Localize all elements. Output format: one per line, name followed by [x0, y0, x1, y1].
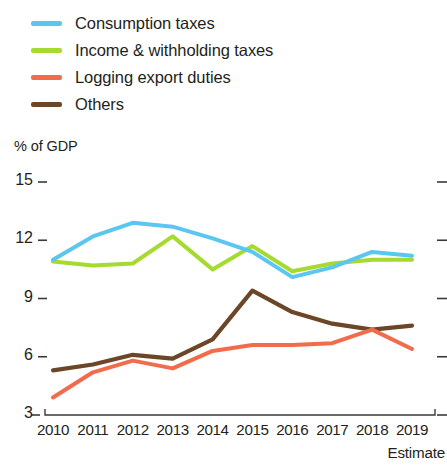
x-axis-tick-label: 2015 [236, 421, 268, 438]
x-axis-line [45, 409, 435, 415]
series-line-others [53, 291, 412, 371]
x-axis-tick-label: 2018 [356, 421, 388, 438]
x-axis-tick-label: 2012 [117, 421, 149, 438]
x-axis-tick-label: 2013 [157, 421, 189, 438]
y-axis-tick-label: 3 [0, 404, 33, 422]
line-chart: 1512963 [0, 0, 447, 468]
y-axis-tick-label: 15 [0, 171, 33, 189]
x-axis-tick-labels: 2010201120122013201420152016201720182019 [0, 421, 447, 441]
y-axis-tick-label: 12 [0, 229, 33, 247]
chart-canvas [0, 0, 447, 468]
y-axis-tick-label: 9 [0, 288, 33, 306]
x-axis-tick-label: 2016 [276, 421, 308, 438]
y-axis-tick-label: 6 [0, 346, 33, 364]
series-line-logging-export-duties [53, 330, 412, 398]
x-axis-tick-label: 2019 [396, 421, 428, 438]
series-line-consumption-taxes [53, 223, 412, 277]
series-line-income-withholding-taxes [53, 236, 412, 271]
x-axis-tick-label: 2017 [316, 421, 348, 438]
x-axis-tick-label: 2014 [196, 421, 228, 438]
estimate-note: Estimate [388, 444, 445, 461]
x-axis-tick-label: 2010 [37, 421, 69, 438]
x-axis-tick-label: 2011 [77, 421, 108, 438]
